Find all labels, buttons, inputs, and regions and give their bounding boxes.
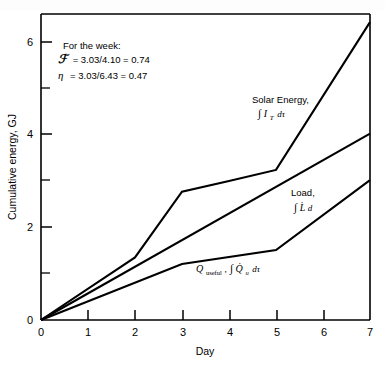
series-line-q-useful — [41, 180, 370, 320]
x-axis-title: Day — [196, 345, 215, 357]
x-tick-label-6: 6 — [321, 326, 327, 338]
cumulative-energy-chart: 6 4 2 0 0 1 2 3 4 5 6 7 Day Cumulative e… — [0, 0, 385, 370]
y-axis-ticks: 6 4 2 0 — [27, 36, 52, 326]
series-label-load-line1: Load, — [291, 187, 315, 198]
solar-fraction-equation: = 3.03/4.10 = 0.74 — [73, 54, 150, 65]
series-label-q-useful: Q useful , ∫ Q̇ u dτ — [196, 262, 261, 277]
efficiency-symbol: η — [58, 69, 63, 81]
x-tick-label-1: 1 — [85, 326, 91, 338]
solar-integrand-tail: dτ — [277, 109, 286, 119]
x-tick-label-0: 0 — [38, 326, 44, 338]
x-tick-label-5: 5 — [274, 326, 280, 338]
series-label-solar-energy-line1: Solar Energy, — [252, 94, 309, 105]
annotation-efficiency: η = 3.03/6.43 = 0.47 — [58, 69, 147, 81]
x-axis-ticks: 0 1 2 3 4 5 6 7 — [38, 310, 373, 338]
q-useful-integrand-tail: dτ — [252, 264, 261, 274]
annotation-solar-fraction: ℱ = 3.03/4.10 = 0.74 — [58, 52, 150, 66]
y-tick-label-0: 0 — [27, 314, 33, 326]
load-integral-sign: ∫ — [293, 201, 298, 214]
series-label-load-line2: ∫ L̇ d — [293, 201, 313, 214]
solar-integrand-var: I — [263, 108, 268, 119]
q-useful-integral-sign: ∫ — [229, 262, 234, 275]
x-tick-label-7: 7 — [367, 326, 373, 338]
load-integrand-tail: d — [308, 203, 313, 213]
series-label-q-useful-text: Q useful , ∫ Q̇ u dτ — [196, 262, 261, 277]
figure-container: 6 4 2 0 0 1 2 3 4 5 6 7 Day Cumulative e… — [0, 0, 385, 370]
q-useful-integrand-subscript: u — [245, 269, 249, 276]
q-useful-var: Q — [196, 263, 204, 274]
solar-integrand-subscript: T — [270, 114, 275, 122]
x-tick-label-2: 2 — [132, 326, 138, 338]
load-integrand-var: L̇ — [299, 202, 306, 213]
solar-fraction-symbol: ℱ — [58, 52, 70, 66]
solar-integral-sign: ∫ — [257, 107, 262, 120]
series-label-load: Load, ∫ L̇ d — [291, 187, 315, 214]
y-tick-label-4: 4 — [27, 128, 33, 140]
q-useful-separator: , — [224, 264, 229, 274]
efficiency-equation: = 3.03/6.43 = 0.47 — [70, 70, 147, 81]
series-line-load — [41, 134, 370, 320]
y-tick-label-2: 2 — [27, 221, 33, 233]
y-tick-label-6: 6 — [27, 36, 33, 48]
x-tick-label-3: 3 — [180, 326, 186, 338]
x-tick-label-4: 4 — [227, 326, 233, 338]
y-axis-title: Cumulative energy, GJ — [6, 114, 18, 220]
annotation-heading: For the week: — [63, 40, 121, 51]
series-label-solar-energy-line2: ∫ I T dτ — [257, 107, 286, 122]
q-useful-integrand-var: Q̇ — [236, 263, 244, 274]
series-label-solar-energy: Solar Energy, ∫ I T dτ — [252, 94, 309, 122]
annotation-block: For the week: ℱ = 3.03/4.10 = 0.74 η = 3… — [58, 40, 150, 81]
q-useful-subscript: useful — [206, 269, 222, 276]
